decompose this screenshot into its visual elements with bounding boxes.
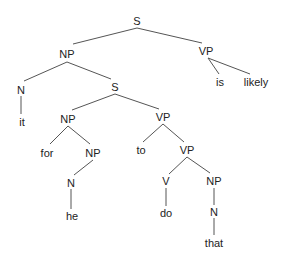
tree-edge	[169, 157, 187, 174]
tree-node: VP	[156, 112, 171, 123]
tree-node: he	[66, 211, 78, 222]
tree-edge	[73, 28, 137, 44]
tree-edge	[67, 62, 111, 79]
tree-node: N	[210, 207, 218, 218]
tree-node: NP	[59, 49, 74, 60]
tree-node: S	[111, 82, 118, 93]
tree-node: N	[67, 178, 75, 189]
tree-node: NP	[206, 176, 221, 187]
tree-edge	[72, 94, 115, 110]
tree-edge	[137, 28, 202, 43]
tree-edge	[163, 124, 184, 142]
tree-edge	[74, 160, 93, 175]
tree-node: N	[17, 85, 25, 96]
tree-node: do	[160, 208, 172, 219]
tree-node: for	[41, 148, 54, 159]
tree-node: it	[19, 117, 25, 128]
tree-edge	[208, 58, 250, 74]
tree-node: VP	[199, 46, 214, 57]
tree-edge	[143, 124, 163, 142]
tree-node: is	[216, 77, 224, 88]
tree-edge	[24, 62, 67, 81]
tree-node: S	[133, 16, 140, 27]
syntax-tree-edges	[0, 0, 281, 261]
tree-edge	[115, 94, 159, 109]
tree-node: to	[136, 145, 145, 156]
tree-node: that	[205, 238, 223, 249]
tree-edge	[187, 157, 210, 173]
tree-node: V	[162, 176, 169, 187]
tree-node: NP	[60, 114, 75, 125]
tree-edge	[50, 126, 68, 144]
tree-node: likely	[244, 77, 268, 88]
tree-node: NP	[85, 148, 100, 159]
tree-edge	[68, 126, 90, 144]
tree-node: VP	[180, 145, 195, 156]
